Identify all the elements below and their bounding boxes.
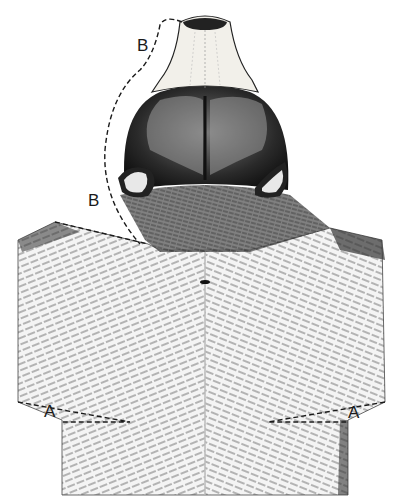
label-a-left: A: [44, 403, 55, 420]
label-b-upper: B: [137, 37, 148, 54]
label-b-lower: B: [88, 192, 99, 209]
left-ear-icon: [118, 167, 155, 197]
back-pelt: [18, 222, 385, 495]
pelt-illustration: [0, 0, 398, 503]
snout: [152, 16, 258, 92]
label-a-right: A: [348, 404, 359, 421]
